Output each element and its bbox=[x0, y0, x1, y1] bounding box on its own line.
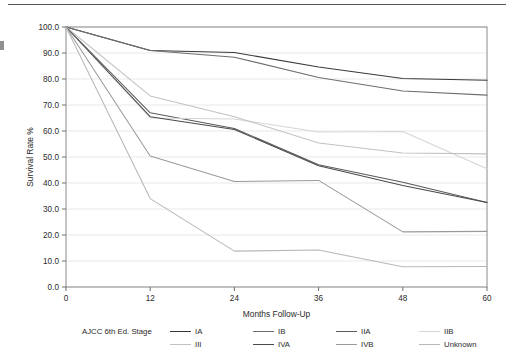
y-tick-label: 90.0 bbox=[43, 49, 59, 58]
legend-item-unknown[interactable]: Unknown bbox=[419, 338, 502, 351]
x-tick-label: 0 bbox=[64, 294, 69, 303]
y-tick-label: 40.0 bbox=[43, 179, 59, 188]
legend-line-swatch bbox=[419, 344, 440, 345]
survival-plot-svg: 0.010.020.030.040.050.060.070.080.090.01… bbox=[0, 0, 514, 364]
y-tick-label: 80.0 bbox=[43, 75, 59, 84]
legend-item-label: IVA bbox=[278, 338, 290, 351]
y-tick-label: 10.0 bbox=[43, 257, 59, 266]
legend-item-iii[interactable]: III bbox=[170, 338, 253, 351]
y-tick-label: 0.0 bbox=[48, 283, 60, 292]
legend-item-iib[interactable]: IIB bbox=[419, 325, 502, 338]
legend-item-iva[interactable]: IVA bbox=[253, 338, 336, 351]
series-line-ia bbox=[66, 27, 487, 80]
legend-line-swatch bbox=[170, 331, 191, 332]
legend-line-swatch bbox=[170, 344, 191, 345]
y-tick-label: 60.0 bbox=[43, 127, 59, 136]
x-axis-ticks: 01224364860 bbox=[64, 287, 492, 303]
legend-item-label: IIA bbox=[361, 325, 371, 338]
legend-item-label: IIB bbox=[444, 325, 454, 338]
series-line-ib bbox=[66, 27, 487, 95]
chart-legend: AJCC 6th Ed. Stage IAIBIIAIIBIIIIVAIVBUn… bbox=[82, 325, 502, 357]
legend-line-swatch bbox=[253, 331, 274, 332]
x-tick-label: 24 bbox=[230, 294, 240, 303]
legend-item-label: Unknown bbox=[444, 338, 477, 351]
legend-line-swatch bbox=[336, 331, 357, 332]
x-tick-label: 12 bbox=[146, 294, 156, 303]
legend-item-label: IVB bbox=[361, 338, 374, 351]
legend-item-label: IA bbox=[195, 325, 202, 338]
series-line-iii bbox=[66, 27, 487, 154]
legend-item-ivb[interactable]: IVB bbox=[336, 338, 419, 351]
legend-item-iia[interactable]: IIA bbox=[336, 325, 419, 338]
y-axis-title: Survival Rate % bbox=[25, 127, 35, 187]
legend-title: AJCC 6th Ed. Stage bbox=[82, 327, 152, 336]
y-tick-label: 50.0 bbox=[43, 153, 59, 162]
legend-line-swatch bbox=[336, 344, 357, 345]
x-axis-title: Months Follow-Up bbox=[243, 309, 311, 319]
legend-line-swatch bbox=[253, 344, 274, 345]
legend-item-label: IB bbox=[278, 325, 285, 338]
x-tick-label: 48 bbox=[398, 294, 408, 303]
legend-items-grid: IAIBIIAIIBIIIIVAIVBUnknown bbox=[170, 325, 502, 351]
legend-line-swatch bbox=[419, 331, 440, 332]
y-tick-label: 70.0 bbox=[43, 101, 59, 110]
legend-item-ib[interactable]: IB bbox=[253, 325, 336, 338]
y-tick-label: 30.0 bbox=[43, 205, 59, 214]
legend-item-label: III bbox=[195, 338, 202, 351]
x-tick-label: 36 bbox=[314, 294, 324, 303]
legend-item-ia[interactable]: IA bbox=[170, 325, 253, 338]
x-tick-label: 60 bbox=[482, 294, 492, 303]
y-tick-label: 100.0 bbox=[39, 23, 60, 32]
gridlines bbox=[66, 27, 487, 287]
series-lines bbox=[66, 27, 487, 267]
y-axis-ticks: 0.010.020.030.040.050.060.070.080.090.01… bbox=[39, 23, 67, 292]
y-tick-label: 20.0 bbox=[43, 231, 59, 240]
survival-chart-figure: 0.010.020.030.040.050.060.070.080.090.01… bbox=[0, 0, 514, 364]
